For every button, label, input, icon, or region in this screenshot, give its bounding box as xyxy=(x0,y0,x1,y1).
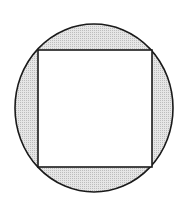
inscribed-square-diagram xyxy=(0,0,184,204)
inscribed-square xyxy=(38,50,152,167)
diagram-canvas xyxy=(0,0,184,204)
